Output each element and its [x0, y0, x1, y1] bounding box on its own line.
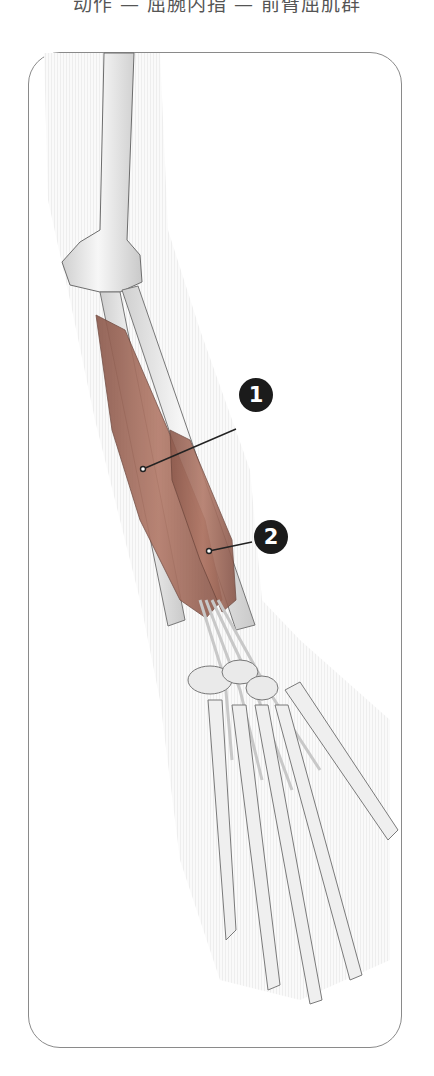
callout-marker-1: 1: [239, 378, 273, 412]
forearm-anatomy-illustration: [0, 0, 434, 1076]
callout-marker-2: 2: [254, 520, 288, 554]
